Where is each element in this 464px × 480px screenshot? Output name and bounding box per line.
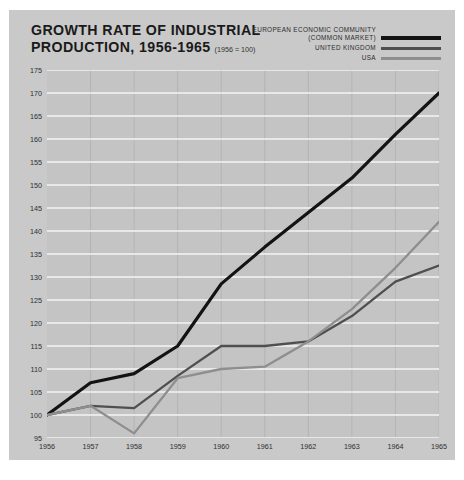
legend-item-eec: EUROPEAN ECONOMIC COMMUNITY (COMMON MARK…	[226, 26, 441, 42]
legend-label-eec-sub: (COMMON MARKET)	[253, 34, 376, 42]
y-tick-label: 145	[30, 204, 42, 213]
x-tick-label: 1956	[39, 442, 55, 451]
page-title-line2-text: PRODUCTION, 1956-1965	[31, 39, 211, 55]
y-tick-label: 135	[30, 250, 42, 259]
x-tick-label: 1965	[431, 442, 447, 451]
y-tick-label: 115	[31, 342, 42, 351]
y-tick-label: 150	[30, 181, 42, 190]
x-tick-label: 1962	[300, 442, 316, 451]
y-tick-label: 105	[30, 388, 42, 397]
y-tick-label: 110	[31, 365, 42, 374]
y-tick-label: 125	[30, 296, 42, 305]
x-tick-label: 1963	[344, 442, 360, 451]
y-tick-label: 155	[30, 158, 42, 167]
x-tick-label: 1964	[387, 442, 403, 451]
y-tick-label: 100	[30, 411, 42, 420]
legend-swatch-eec	[381, 36, 441, 40]
x-tick-label: 1959	[170, 442, 186, 451]
plot-area	[47, 70, 439, 438]
chart-card: GROWTH RATE OF INDUSTRIAL PRODUCTION, 19…	[9, 10, 455, 460]
legend-label-eec-main: EUROPEAN ECONOMIC COMMUNITY	[253, 26, 376, 33]
chart-header: GROWTH RATE OF INDUSTRIAL PRODUCTION, 19…	[9, 10, 455, 68]
chart-legend: EUROPEAN ECONOMIC COMMUNITY (COMMON MARK…	[226, 26, 441, 64]
x-tick-label: 1961	[257, 442, 273, 451]
y-tick-label: 140	[30, 227, 42, 236]
y-tick-label: 175	[30, 66, 42, 75]
y-tick-label: 130	[30, 273, 42, 282]
plot-wrapper: 9510010511011512012513013514014515015516…	[47, 70, 439, 438]
legend-item-uk: UNITED KINGDOM	[226, 44, 441, 52]
chart-canvas	[47, 70, 439, 438]
x-tick-label: 1957	[83, 442, 99, 451]
legend-label-uk: UNITED KINGDOM	[315, 44, 376, 52]
legend-label-usa: USA	[362, 54, 376, 62]
legend-swatch-uk	[381, 47, 441, 50]
y-tick-label: 170	[30, 89, 42, 98]
x-tick-label: 1958	[126, 442, 142, 451]
legend-label-eec: EUROPEAN ECONOMIC COMMUNITY (COMMON MARK…	[253, 26, 376, 42]
chart-figure: GROWTH RATE OF INDUSTRIAL PRODUCTION, 19…	[0, 0, 464, 480]
y-tick-label: 165	[30, 112, 42, 121]
legend-item-usa: USA	[226, 54, 441, 62]
y-tick-label: 160	[30, 135, 42, 144]
x-tick-label: 1960	[213, 442, 229, 451]
legend-swatch-usa	[381, 57, 441, 60]
y-tick-label: 120	[30, 319, 42, 328]
